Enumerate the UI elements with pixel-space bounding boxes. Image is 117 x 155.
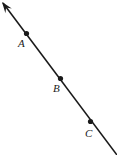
point-label-c: C [85, 128, 92, 139]
point-label-b: B [53, 83, 60, 94]
point-label-a: A [18, 38, 25, 49]
figure-canvas [0, 0, 117, 155]
point-dot-a [24, 31, 29, 36]
geometry-figure: A B C [0, 0, 117, 155]
point-dot-b [58, 76, 63, 81]
point-dot-c [88, 119, 93, 124]
